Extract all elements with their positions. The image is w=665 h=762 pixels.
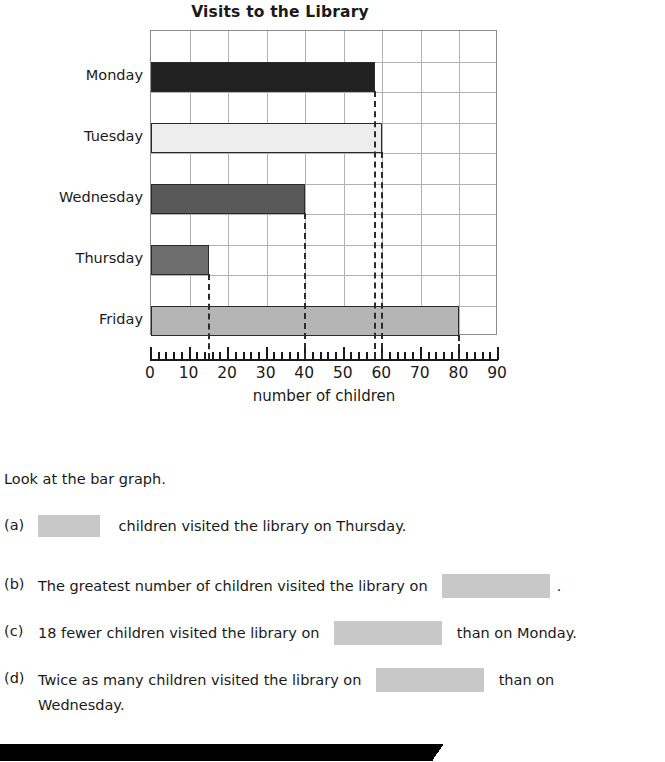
question-c-after: than on Monday. (457, 625, 577, 641)
question-d-line1: Twice as many children visited the libra… (38, 669, 658, 693)
x-tick-label: 80 (438, 364, 478, 382)
question-d-line2: Wednesday. (38, 696, 658, 716)
x-axis-title: number of children (150, 387, 498, 405)
question-label-d: (d) (4, 669, 36, 689)
question-a-after: children visited the library on Thursday… (119, 518, 407, 534)
x-tick-minor (474, 352, 476, 360)
x-tick-minor (443, 352, 445, 360)
lead-in-text: Look at the bar graph. (4, 470, 166, 490)
x-tick-minor (173, 352, 175, 360)
x-tick-minor (412, 352, 414, 360)
x-tick-minor (428, 352, 430, 360)
bar-chart: Visits to the Library MondayTuesdayWedne… (0, 0, 665, 440)
answer-blank-c[interactable] (334, 621, 442, 645)
x-tick-minor (466, 352, 468, 360)
x-tick-major (343, 347, 345, 360)
x-tick-minor (212, 352, 214, 360)
x-tick-label: 60 (361, 364, 401, 382)
horizontal-gridline (151, 275, 496, 276)
horizontal-gridline (151, 153, 496, 154)
x-tick-minor (273, 352, 275, 360)
horizontal-gridline (151, 92, 496, 93)
x-tick-label: 10 (169, 364, 209, 382)
vertical-gridline (459, 31, 460, 334)
x-tick-minor (281, 352, 283, 360)
guide-line-tuesday (381, 152, 383, 359)
x-tick-major (227, 347, 229, 360)
answer-blank-b[interactable] (442, 574, 550, 598)
guide-line-friday (458, 335, 460, 359)
question-text-b: The greatest number of children visited … (38, 575, 658, 599)
x-tick-minor (297, 352, 299, 360)
question-label-a: (a) (4, 516, 36, 536)
x-tick-minor (243, 352, 245, 360)
x-tick-minor (258, 352, 260, 360)
category-label-wednesday: Wednesday (3, 189, 143, 205)
question-text-a: children visited the library on Thursday… (38, 516, 658, 538)
plot-area (150, 30, 497, 335)
x-tick-label: 50 (323, 364, 363, 382)
x-tick-minor (350, 352, 352, 360)
x-tick-minor (404, 352, 406, 360)
x-tick-label: 70 (400, 364, 440, 382)
category-label-friday: Friday (3, 311, 143, 327)
x-tick-label: 40 (284, 364, 324, 382)
chart-title: Visits to the Library (0, 3, 560, 21)
x-tick-minor (389, 352, 391, 360)
x-tick-minor (196, 352, 198, 360)
horizontal-gridline (151, 214, 496, 215)
x-tick-label: 90 (477, 364, 517, 382)
x-tick-minor (451, 352, 453, 360)
x-tick-minor (312, 352, 314, 360)
guide-line-thursday (208, 274, 210, 359)
x-tick-minor (397, 352, 399, 360)
x-tick-label: 30 (246, 364, 286, 382)
x-tick-major (497, 347, 499, 360)
x-tick-label: 0 (130, 364, 170, 382)
bottom-black-band-taper (433, 744, 445, 761)
bar-tuesday (151, 123, 382, 154)
x-tick-minor (327, 352, 329, 360)
guide-line-monday (374, 91, 376, 359)
x-tick-minor (489, 352, 491, 360)
x-tick-minor (235, 352, 237, 360)
category-axis-labels: MondayTuesdayWednesdayThursdayFriday (0, 30, 143, 335)
bar-wednesday (151, 184, 305, 215)
question-label-c: (c) (4, 622, 36, 642)
answer-blank-a[interactable] (38, 515, 100, 537)
category-label-tuesday: Tuesday (3, 128, 143, 144)
question-c-before: 18 fewer children visited the library on (38, 625, 320, 641)
category-label-monday: Monday (3, 67, 143, 83)
x-tick-minor (366, 352, 368, 360)
x-tick-minor (482, 352, 484, 360)
question-label-b: (b) (4, 575, 36, 595)
x-tick-major (266, 347, 268, 360)
answer-blank-d[interactable] (376, 668, 484, 692)
x-tick-minor (158, 352, 160, 360)
question-b-after: . (557, 578, 562, 594)
guide-line-wednesday (304, 213, 306, 359)
x-tick-minor (181, 352, 183, 360)
vertical-gridline (421, 31, 422, 334)
x-tick-label: 20 (207, 364, 247, 382)
question-text-c: 18 fewer children visited the library on… (38, 622, 658, 646)
x-tick-minor (320, 352, 322, 360)
bar-monday (151, 62, 375, 93)
x-tick-minor (204, 352, 206, 360)
bar-thursday (151, 245, 209, 276)
x-tick-major (420, 347, 422, 360)
x-tick-minor (289, 352, 291, 360)
category-label-thursday: Thursday (3, 250, 143, 266)
x-tick-major (150, 347, 152, 360)
x-tick-minor (435, 352, 437, 360)
x-axis-line (150, 359, 498, 361)
x-tick-major (189, 347, 191, 360)
question-text-d: Twice as many children visited the libra… (38, 669, 658, 716)
x-tick-minor (335, 352, 337, 360)
bottom-black-band (0, 744, 433, 761)
question-d-before: Twice as many children visited the libra… (38, 672, 361, 688)
x-tick-minor (358, 352, 360, 360)
x-tick-minor (250, 352, 252, 360)
question-d-after: than on (499, 672, 555, 688)
question-b-before: The greatest number of children visited … (38, 578, 428, 594)
